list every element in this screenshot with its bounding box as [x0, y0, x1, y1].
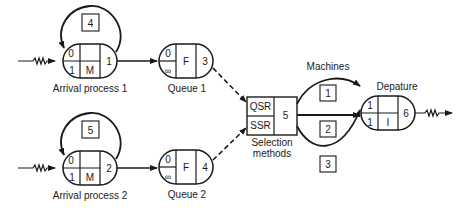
- arrival-2-input-zigzag-icon: [18, 165, 55, 171]
- queueing-network-diagram: 0 1 M 1 4 Arrival process 1 0 ∞ F 3 Queu…: [0, 0, 474, 208]
- selection-ssr: SSR: [250, 120, 271, 131]
- queue-1-label: Queue 1: [168, 83, 207, 94]
- queue-2-id: 4: [202, 162, 208, 173]
- arrival-2-distribution: M: [86, 172, 94, 183]
- departure-top-left: 1: [367, 100, 373, 111]
- departure-bottom-left: 1: [367, 117, 373, 128]
- queue-1-node: 0 ∞ F 3 Queue 1: [159, 44, 213, 94]
- arrival-1-bottom-left: 1: [69, 65, 75, 76]
- machines-label: Machines: [307, 61, 350, 72]
- arrival-2-label: Arrival process 2: [53, 190, 128, 201]
- machine-box-3: 3: [325, 159, 331, 170]
- machines-group: Machines 1 2 3: [297, 61, 360, 172]
- arrow-queue1-to-selection: [213, 68, 246, 102]
- arrival-1-top-left: 0: [68, 48, 74, 59]
- queue-2-node: 0 ∞ F 4 Queue 2: [159, 150, 213, 200]
- selection-id: 5: [283, 110, 289, 121]
- arrival-1-loop-box: 4: [88, 18, 94, 29]
- selection-label-line2: methods: [253, 148, 291, 159]
- queue-1-top-left: 0: [165, 48, 171, 59]
- departure-label: Depature: [376, 81, 418, 92]
- arrival-2-loop-box: 5: [88, 125, 94, 136]
- machine-box-1: 1: [325, 88, 331, 99]
- selection-qsr: QSR: [250, 101, 272, 112]
- queue-1-discipline: F: [183, 56, 189, 67]
- arrival-1-input-zigzag-icon: [18, 58, 55, 64]
- arrow-queue2-to-selection: [213, 128, 246, 160]
- queue-2-top-left: 0: [165, 154, 171, 165]
- arrival-2-id: 2: [106, 163, 112, 174]
- arrival-2-top-left: 0: [68, 155, 74, 166]
- machine-box-2: 2: [325, 124, 331, 135]
- arrival-1-distribution: M: [86, 65, 94, 76]
- arrival-process-2-node: 0 1 M 2 5 Arrival process 2: [18, 113, 128, 201]
- arrival-1-id: 1: [106, 56, 112, 67]
- departure-id: 6: [403, 108, 409, 119]
- queue-2-discipline: F: [183, 162, 189, 173]
- departure-bottom-mid: I: [387, 117, 390, 128]
- departure-node: Depature 1 1 I 6: [361, 81, 452, 130]
- queue-2-capacity: ∞: [165, 172, 171, 182]
- selection-methods-node: QSR SSR 5 Selection methods: [247, 97, 297, 159]
- arrival-1-label: Arrival process 1: [53, 83, 128, 94]
- queue-2-label: Queue 2: [168, 189, 207, 200]
- departure-output-zigzag-icon: [415, 110, 452, 116]
- arrival-process-1-node: 0 1 M 1 4 Arrival process 1: [18, 6, 128, 94]
- selection-label-line1: Selection: [251, 137, 292, 148]
- arrival-2-bottom-left: 1: [69, 172, 75, 183]
- queue-1-capacity: ∞: [165, 66, 171, 76]
- queue-1-id: 3: [202, 56, 208, 67]
